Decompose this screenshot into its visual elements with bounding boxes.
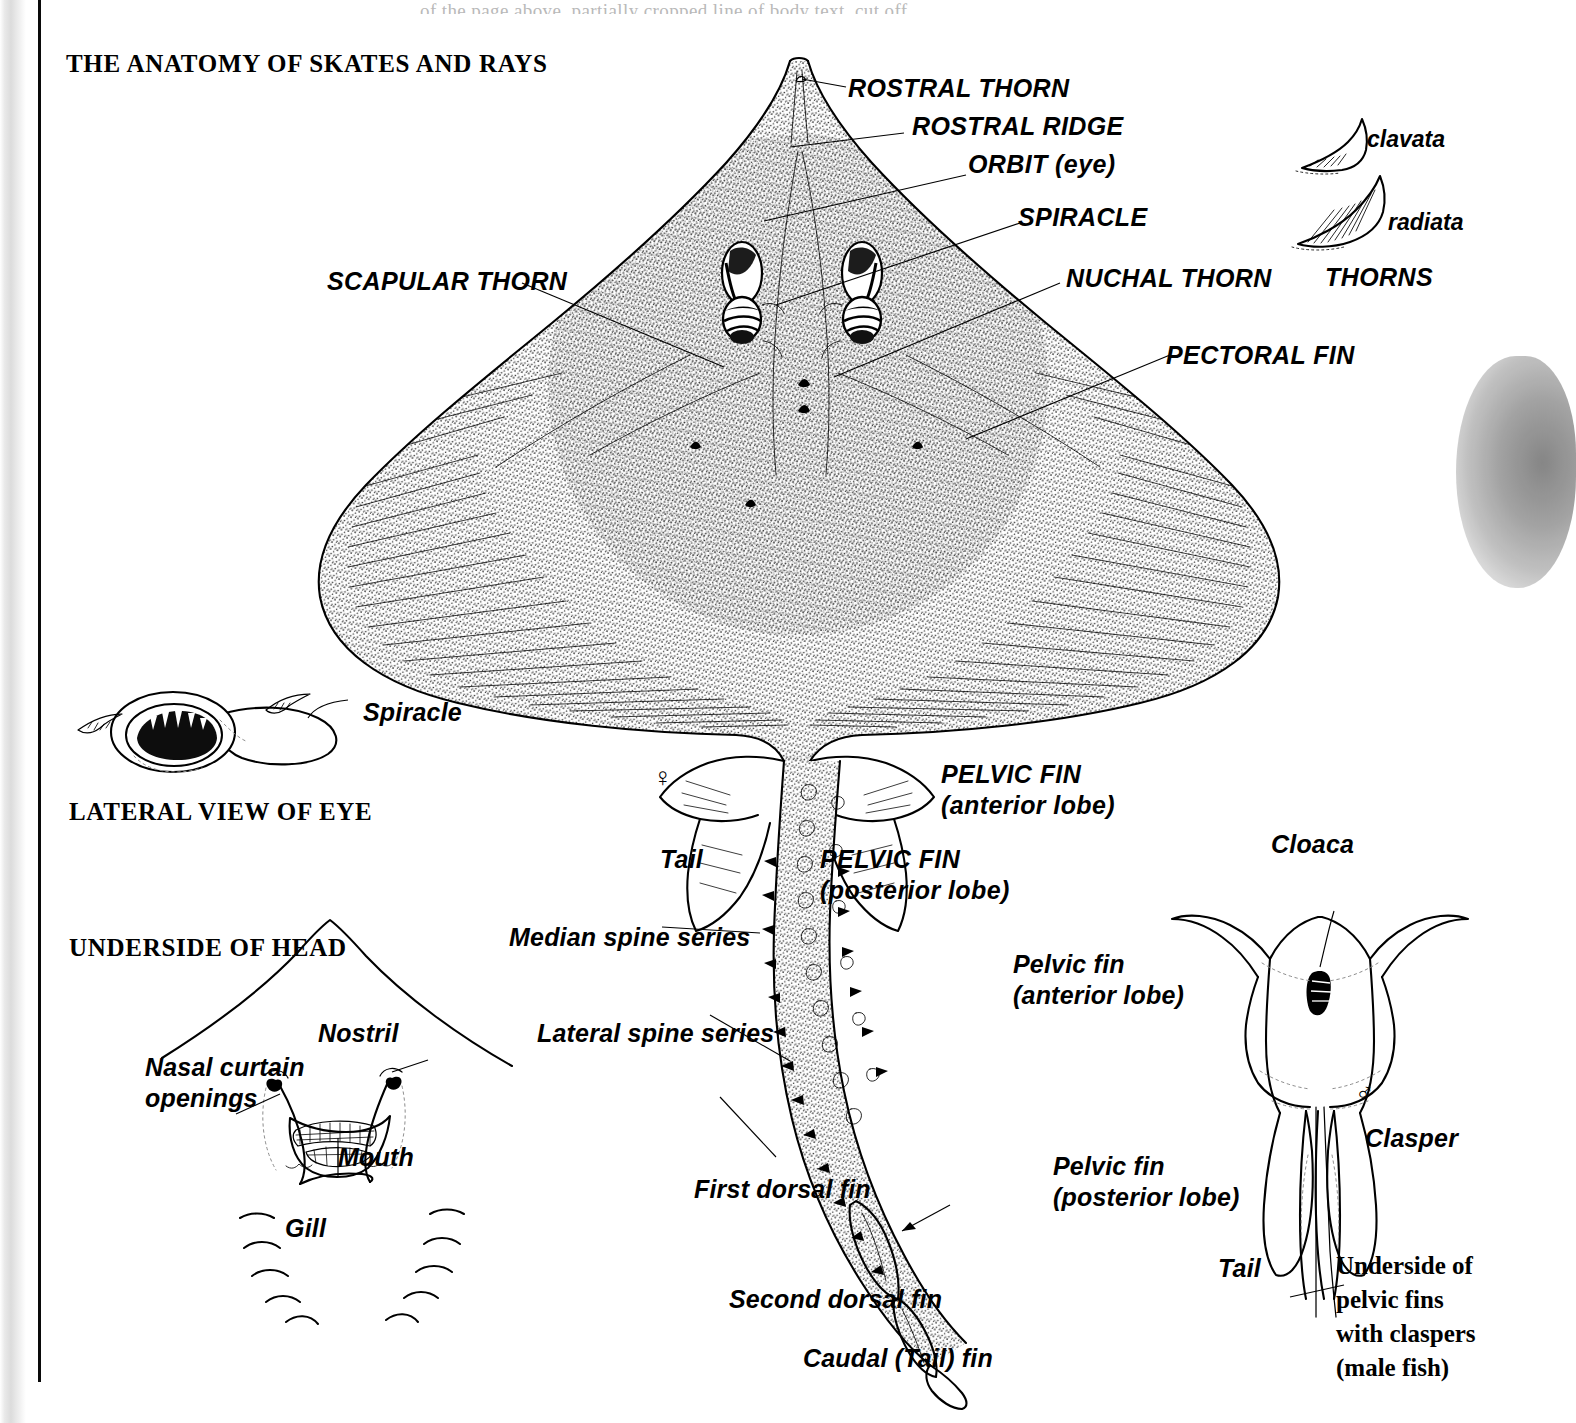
label-pelvic-fin-posterior-line2: (posterior lobe): [820, 876, 1010, 906]
label-clasper-pelvic-anterior-line2: (anterior lobe): [1013, 981, 1184, 1011]
label-lateral-spine-series: Lateral spine series: [537, 1019, 774, 1049]
label-nasal-curtain-line1: Nasal curtain: [145, 1053, 305, 1083]
underside-head-illustration: [140, 918, 560, 1338]
heading-thorns: THORNS: [1325, 263, 1433, 293]
label-thorn-radiata: radiata: [1388, 209, 1463, 236]
caption-claspers-line2: pelvic fins: [1336, 1286, 1444, 1315]
label-nasal-curtain-line2: openings: [145, 1084, 258, 1114]
label-mouth: Mouth: [338, 1143, 414, 1173]
label-clasper-pelvic-posterior-line2: (posterior lobe): [1053, 1183, 1240, 1213]
cropped-body-text: of the page above, partially cropped lin…: [420, 0, 1530, 14]
label-thorn-clavata: clavata: [1367, 126, 1445, 153]
label-nostril: Nostril: [318, 1019, 399, 1049]
tail-fold-arrow: [902, 1205, 950, 1231]
scan-gutter-shadow: [0, 0, 26, 1423]
lateral-eye-illustration: [70, 680, 380, 790]
label-clasper-pelvic-posterior-line1: Pelvic fin: [1053, 1152, 1165, 1182]
label-rostral-ridge: ROSTRAL RIDGE: [912, 112, 1124, 142]
label-rostral-thorn: ROSTRAL THORN: [848, 74, 1069, 104]
label-spiracle: SPIRACLE: [1018, 203, 1148, 233]
label-pectoral-fin: PECTORAL FIN: [1166, 341, 1355, 371]
label-pelvic-fin-anterior-line1: PELVIC FIN: [941, 760, 1081, 790]
thorn-radiata: [1292, 176, 1384, 250]
label-eye-spiracle: Spiracle: [363, 698, 462, 728]
female-symbol: ♀: [653, 763, 673, 793]
label-clasper-pelvic-anterior-line1: Pelvic fin: [1013, 950, 1125, 980]
label-orbit: ORBIT (eye): [968, 150, 1115, 180]
label-first-dorsal-fin: First dorsal fin: [694, 1175, 871, 1205]
label-pelvic-fin-anterior-line2: (anterior lobe): [941, 791, 1115, 821]
page-border-rule: [38, 0, 41, 1382]
thorn-clavata: [1296, 119, 1367, 174]
label-gill: Gill: [285, 1214, 326, 1244]
eye-thorn-right: [266, 694, 310, 713]
photo-bleed-blob: [1456, 356, 1576, 588]
cloaca: [1307, 971, 1332, 1015]
label-caudal-fin: Caudal (Tail) fin: [803, 1344, 993, 1374]
label-second-dorsal-fin: Second dorsal fin: [729, 1285, 942, 1315]
label-nuchal-thorn: NUCHAL THORN: [1066, 264, 1272, 294]
caption-claspers-line4: (male fish): [1336, 1354, 1449, 1383]
label-clasper: Clasper: [1365, 1124, 1458, 1154]
label-clasper-tail: Tail: [1218, 1254, 1261, 1284]
male-symbol: ♂: [1355, 1078, 1375, 1108]
caption-claspers-line1: Underside of: [1336, 1252, 1473, 1281]
label-pelvic-fin-posterior-line1: PELVIC FIN: [820, 845, 960, 875]
heading-lateral-view-of-eye: LATERAL VIEW OF EYE: [69, 798, 372, 826]
gill-slits-right: [386, 1210, 464, 1323]
caption-claspers-line3: with claspers: [1336, 1320, 1476, 1349]
label-scapular-thorn: SCAPULAR THORN: [327, 267, 567, 297]
label-tail: Tail: [660, 845, 703, 875]
label-cloaca: Cloaca: [1271, 830, 1354, 860]
